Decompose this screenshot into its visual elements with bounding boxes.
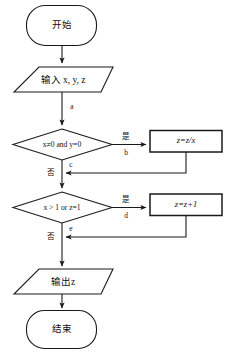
flowchart-canvas: 开始 输入 x, y, z x≠0 and y=0 z=z/x x > 1 or… [0, 0, 229, 353]
node-input: 输入 x, y, z [14, 67, 113, 92]
node-process2-label: z=z+1 [174, 199, 197, 209]
node-process2: z=z+1 [150, 194, 222, 216]
edge-label-b: b [124, 148, 128, 157]
flowchart-page: 开始 输入 x, y, z x≠0 and y=0 z=z/x x > 1 or… [0, 0, 229, 353]
edge-label-d: d [124, 211, 128, 220]
node-start: 开始 [27, 6, 97, 46]
edge-label-c: c [69, 160, 73, 169]
edge-label-no-2: 否 [47, 232, 55, 241]
node-decision2-label: x > 1 or z=1 [43, 203, 80, 212]
node-end: 结束 [27, 311, 97, 349]
node-process1: z=z/x [150, 131, 222, 153]
edge-label-yes-1: 是 [122, 132, 130, 141]
edge-label-no-1: 否 [47, 168, 55, 177]
node-decision1-label: x≠0 and y=0 [43, 140, 82, 149]
node-decision2: x > 1 or z=1 [13, 192, 112, 223]
node-start-label: 开始 [52, 19, 72, 30]
edge-label-e: e [69, 224, 73, 233]
node-output: 输出z [14, 269, 113, 294]
node-output-label: 输出z [51, 276, 75, 287]
node-decision1: x≠0 and y=0 [13, 129, 112, 160]
edge-label-yes-2: 是 [122, 195, 130, 204]
node-input-label: 输入 x, y, z [41, 74, 86, 85]
edge-label-a: a [70, 102, 74, 111]
node-end-label: 结束 [52, 323, 72, 334]
node-process1-label: z=z/x [176, 135, 196, 145]
